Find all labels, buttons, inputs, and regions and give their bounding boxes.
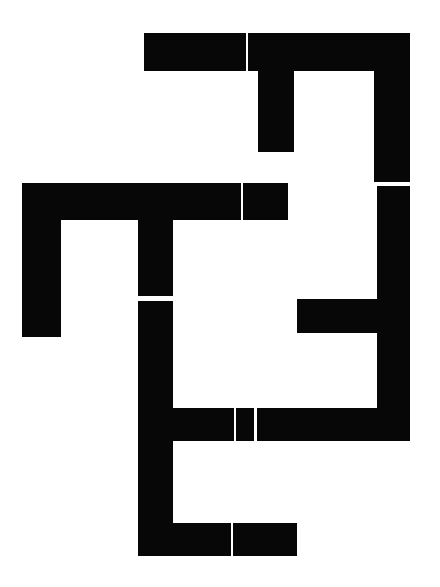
middle-horizontal-bar bbox=[22, 183, 288, 220]
bottom-horizontal-bar bbox=[173, 523, 297, 556]
seam-middle-bar-vertical bbox=[241, 183, 243, 220]
top-right-vertical-bar bbox=[374, 33, 410, 183]
seam-lower-bar-vertical-a bbox=[234, 408, 236, 441]
center-lower-vertical-bar bbox=[138, 301, 173, 556]
lower-horizontal-bar bbox=[173, 408, 410, 441]
center-upper-vertical-bar bbox=[138, 220, 173, 298]
seam-top-bar-vertical bbox=[246, 33, 248, 71]
artwork-canvas bbox=[0, 0, 440, 587]
right-inner-horizontal-stub bbox=[297, 299, 377, 333]
seam-right-bar-horizontal bbox=[374, 182, 410, 186]
seam-center-vertical-gap bbox=[138, 296, 173, 301]
right-lower-vertical-bar bbox=[377, 186, 410, 441]
upper-inner-vertical-stub bbox=[258, 60, 294, 152]
left-vertical-bar bbox=[22, 220, 61, 337]
seam-lower-bar-vertical-b bbox=[254, 408, 257, 441]
seam-bottom-bar-vertical bbox=[231, 523, 233, 556]
